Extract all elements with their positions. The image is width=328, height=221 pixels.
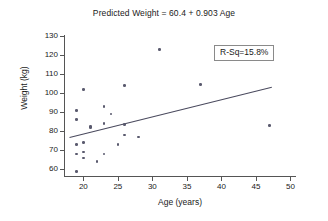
y-tick-100	[60, 93, 64, 94]
y-tick-label: 70	[18, 146, 58, 154]
x-tick-50	[290, 177, 291, 181]
x-tick-label: 20	[68, 183, 98, 191]
data-point	[82, 141, 85, 144]
y-tick-120	[60, 55, 64, 56]
chart-title: Predicted Weight = 60.4 + 0.903 Age	[0, 8, 328, 18]
x-tick-25	[118, 177, 119, 181]
y-tick-60	[60, 169, 64, 170]
x-tick-20	[83, 177, 84, 181]
x-tick-label: 35	[172, 183, 202, 191]
y-axis-line	[64, 35, 65, 176]
x-tick-40	[221, 177, 222, 181]
y-tick-130	[60, 36, 64, 37]
data-point	[75, 118, 78, 121]
data-point	[103, 122, 106, 125]
data-point	[268, 124, 271, 127]
scatter-plot-figure: Predicted Weight = 60.4 + 0.903 Age 6070…	[0, 0, 328, 221]
data-point	[82, 151, 85, 154]
y-tick-80	[60, 131, 64, 132]
x-tick-label: 45	[241, 183, 271, 191]
x-tick-label: 25	[103, 183, 133, 191]
x-axis-label: Age (years)	[64, 197, 296, 207]
y-tick-label: 130	[18, 32, 58, 40]
x-axis-line	[64, 176, 296, 177]
regression-line	[70, 87, 272, 137]
data-point	[89, 125, 92, 128]
data-point	[103, 105, 106, 108]
data-point	[75, 109, 78, 112]
y-tick-90	[60, 112, 64, 113]
data-point	[82, 88, 85, 91]
r-squared-annotation: R-Sq=15.8%	[214, 45, 274, 61]
x-tick-30	[152, 177, 153, 181]
y-tick-label: 60	[18, 165, 58, 173]
data-point	[199, 83, 202, 86]
x-tick-35	[187, 177, 188, 181]
data-point	[117, 143, 120, 146]
y-axis-label: Weight (kg)	[19, 43, 29, 133]
x-tick-label: 50	[275, 183, 305, 191]
x-tick-label: 30	[137, 183, 167, 191]
data-point	[89, 126, 92, 129]
data-point	[75, 170, 78, 173]
data-point	[82, 157, 85, 160]
y-tick-70	[60, 150, 64, 151]
x-tick-45	[256, 177, 257, 181]
data-point	[123, 84, 126, 87]
data-point	[75, 143, 78, 146]
data-point	[123, 134, 126, 137]
y-tick-110	[60, 74, 64, 75]
x-tick-label: 40	[206, 183, 236, 191]
data-point	[123, 123, 126, 126]
data-point	[110, 113, 113, 116]
data-point	[96, 160, 99, 163]
data-point	[158, 48, 161, 51]
data-point	[137, 136, 140, 139]
data-point	[75, 153, 78, 156]
data-point	[103, 153, 106, 156]
